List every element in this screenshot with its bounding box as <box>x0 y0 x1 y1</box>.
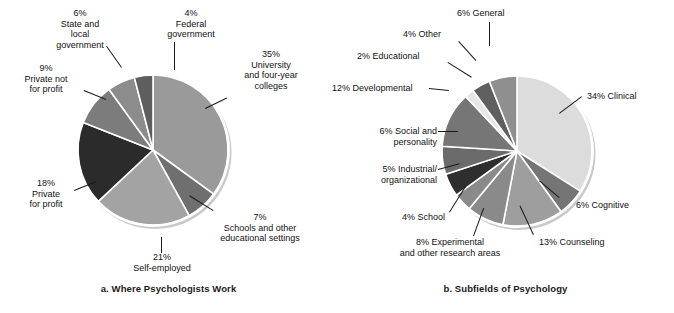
label-social-and-personality: 6% Social and personality <box>319 126 437 147</box>
label-developmental: 12% Developmental <box>332 83 413 94</box>
chart-panel-where-psychologists-work: 6% State and local government 4% Federal… <box>0 0 337 313</box>
leader-line-other <box>458 41 476 61</box>
label-clinical: 34% Clinical <box>587 91 637 102</box>
leader-line-federal <box>174 42 175 70</box>
label-private-not-for-profit: 9% Private not for profit <box>0 63 94 95</box>
label-other: 4% Other <box>403 29 441 40</box>
label-private-for-profit: 18% Private for profit <box>4 178 88 210</box>
caption-chart-b: b. Subfields of Psychology <box>337 283 674 294</box>
label-general: 6% General <box>457 8 505 19</box>
label-university-and-four-year-colleges: 35% University and four-year colleges <box>216 49 326 91</box>
leader-line-social <box>438 131 458 132</box>
label-industrial-organizational: 5% Industrial/ organizational <box>315 164 437 185</box>
pie-chart-b <box>438 72 596 230</box>
label-experimental-and-other-research-areas: 8% Experimental and other research areas <box>357 237 543 258</box>
label-school: 4% School <box>337 212 445 223</box>
label-cognitive: 6% Cognitive <box>576 200 629 211</box>
leader-line-self-employed <box>161 237 162 253</box>
label-educational: 2% Educational <box>357 51 420 62</box>
label-federal-government: 4% Federal government <box>143 8 239 40</box>
label-schools-and-other-educational-settings: 7% Schools and other educational setting… <box>186 212 334 244</box>
caption-chart-a: a. Where Psychologists Work <box>0 283 337 294</box>
chart-panel-subfields-of-psychology: 6% General 4% Other 2% Educational 12% D… <box>337 0 674 313</box>
label-counseling: 13% Counseling <box>539 237 605 248</box>
leader-line-general <box>489 22 490 46</box>
two-pie-chart-figure: 6% State and local government 4% Federal… <box>0 0 674 313</box>
label-self-employed: 21% Self-employed <box>108 252 216 273</box>
label-state-and-local-government: 6% State and local government <box>18 8 142 50</box>
pie-b-svg <box>438 72 596 230</box>
